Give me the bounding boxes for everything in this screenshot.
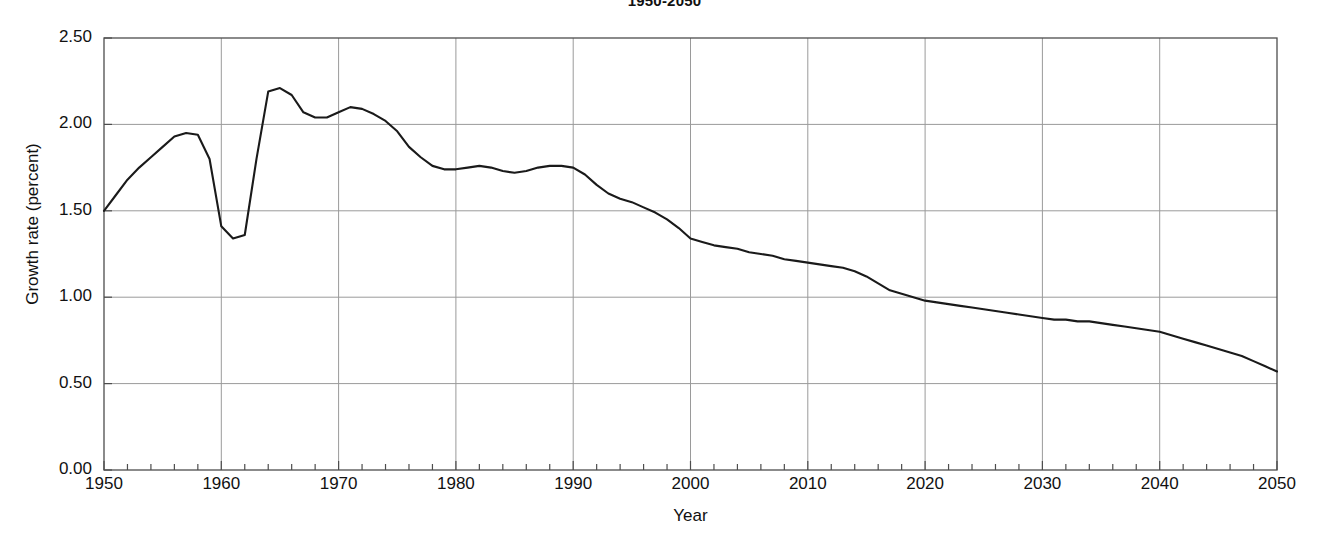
plot-area xyxy=(0,0,1329,544)
chart-figure: 1950-2050 Growth rate (percent) Year 0.0… xyxy=(0,0,1329,544)
y-tick-label: 0.50 xyxy=(0,373,92,393)
x-tick-label: 2020 xyxy=(880,474,970,494)
y-tick-label: 2.50 xyxy=(0,27,92,47)
x-tick-label: 1970 xyxy=(294,474,384,494)
y-tick-label: 2.00 xyxy=(0,113,92,133)
x-tick-label: 1960 xyxy=(176,474,266,494)
x-axis-label: Year xyxy=(104,506,1277,526)
x-tick-label: 2040 xyxy=(1115,474,1205,494)
y-tick-label: 1.50 xyxy=(0,200,92,220)
x-tick-label: 1990 xyxy=(528,474,618,494)
x-tick-label: 2050 xyxy=(1232,474,1322,494)
x-tick-label: 1950 xyxy=(59,474,149,494)
y-tick-label: 1.00 xyxy=(0,286,92,306)
x-tick-label: 2000 xyxy=(646,474,736,494)
x-tick-label: 2030 xyxy=(997,474,1087,494)
x-tick-label: 1980 xyxy=(411,474,501,494)
x-tick-label: 2010 xyxy=(763,474,853,494)
